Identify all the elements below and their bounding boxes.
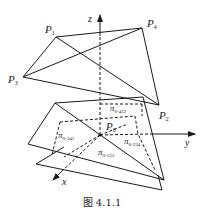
- plane-p341-label: π0-341: [58, 131, 74, 141]
- point-p3-label: P3: [8, 74, 18, 86]
- z-axis-label: z: [88, 14, 92, 24]
- diagram-canvas: [0, 0, 204, 210]
- tetrahedron-edges: [23, 28, 159, 105]
- tetrahedron-projection-diagram: z y x P1 P4 P3 P2 P0 π0-412 π0-341 π0-23…: [0, 0, 204, 210]
- projection-planes: [28, 97, 164, 190]
- point-p0-label: P0: [106, 121, 116, 133]
- plane-p234-label: π0-234: [124, 137, 140, 147]
- plane-p123-label: π0-123: [98, 148, 114, 158]
- point-p4-label: P4: [147, 18, 157, 30]
- point-p2-label: P2: [159, 110, 169, 122]
- x-axis-label: x: [62, 177, 66, 187]
- y-axis-label: y: [185, 138, 189, 148]
- figure-caption: 图 4.1.1: [0, 194, 204, 209]
- origin-point: [99, 134, 102, 137]
- x-axis: [53, 135, 100, 180]
- point-p1-label: P1: [45, 24, 55, 36]
- plane-p412-label: π0-412: [110, 104, 126, 114]
